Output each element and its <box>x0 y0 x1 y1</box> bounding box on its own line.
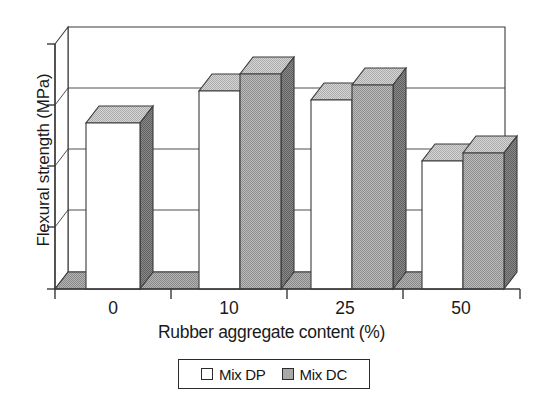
bar-dc-25 <box>352 68 406 289</box>
chart-figure: 0 10 25 50 Flexural strength (MPa) Rubbe… <box>0 0 543 418</box>
x-tick-label-3: 50 <box>451 298 471 318</box>
gray-square-icon <box>282 368 294 380</box>
white-square-icon <box>201 368 213 380</box>
legend-item-mix-dp[interactable]: Mix DP <box>201 366 266 383</box>
bar-group-10 <box>199 57 294 289</box>
chart-plot-area: 0 10 25 50 <box>0 0 543 418</box>
x-axis-title: Rubber aggregate content (%) <box>0 322 543 343</box>
legend-item-mix-dc[interactable]: Mix DC <box>282 366 347 383</box>
chart-svg: 0 10 25 50 <box>0 0 543 418</box>
x-tick-label-2: 25 <box>335 298 354 318</box>
x-tick-labels: 0 10 25 50 <box>108 298 471 318</box>
bar-dp-0 <box>86 106 153 289</box>
bar-group-0 <box>86 106 153 289</box>
bar-group-25 <box>311 68 406 289</box>
x-tick-label-1: 10 <box>219 298 239 318</box>
x-axis <box>55 289 520 299</box>
y-axis-title: Flexural strength (MPa) <box>34 20 54 300</box>
bar-dc-50 <box>463 136 517 289</box>
legend-label-mix-dp: Mix DP <box>219 366 266 383</box>
chart-legend: Mix DP Mix DC <box>178 359 370 389</box>
legend-label-mix-dc: Mix DC <box>300 366 347 383</box>
x-tick-label-0: 0 <box>108 298 118 318</box>
bar-group-50 <box>422 136 517 289</box>
bar-dc-10 <box>240 57 294 289</box>
